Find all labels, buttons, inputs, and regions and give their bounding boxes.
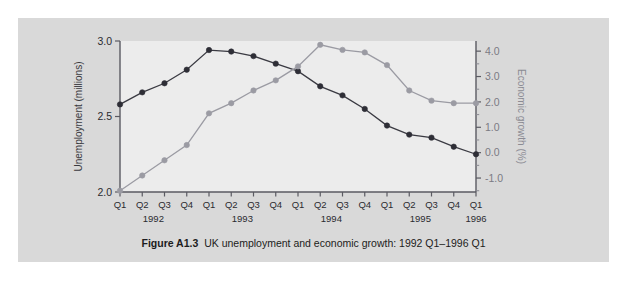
data-point [251, 88, 256, 93]
right-axis-tick-label: -1.0 [485, 172, 503, 184]
chart-plot-area: 2.02.53.0 -1.00.01.02.03.04.0 Q1Q2Q3Q4Q1… [18, 18, 609, 223]
x-axis-year-label: 1993 [232, 213, 253, 223]
data-point [229, 49, 234, 54]
right-axis-tick-label: 3.0 [485, 70, 500, 82]
data-point [318, 84, 323, 89]
data-point [273, 61, 278, 66]
x-axis-year-label: 1995 [410, 213, 431, 223]
data-point [407, 88, 412, 93]
data-point [451, 100, 456, 105]
data-point [162, 81, 167, 86]
x-axis: Q1Q2Q3Q4Q1Q2Q3Q4Q1Q2Q3Q4Q1Q2Q3Q4Q1199219… [114, 192, 487, 223]
x-axis-quarter-label: Q3 [336, 199, 349, 210]
x-axis-quarter-label: Q3 [158, 199, 171, 210]
data-point [473, 100, 478, 105]
right-axis: -1.00.01.02.03.04.0 [476, 41, 503, 192]
data-point [340, 47, 345, 52]
x-axis-quarter-label: Q1 [470, 199, 483, 210]
data-point [184, 142, 189, 147]
left-axis-title: Unemployment (millions) [73, 61, 84, 171]
data-point [273, 78, 278, 83]
x-axis-year-label: 1994 [321, 213, 342, 223]
figure-card: 2.02.53.0 -1.00.01.02.03.04.0 Q1Q2Q3Q4Q1… [18, 18, 609, 262]
x-axis-quarter-label: Q4 [447, 199, 460, 210]
right-axis-tick-label: 4.0 [485, 45, 500, 57]
x-axis-year-label: 1992 [143, 213, 164, 223]
left-axis-tick-label: 3.0 [97, 35, 112, 47]
data-point [140, 90, 145, 95]
x-axis-quarter-label: Q1 [381, 199, 394, 210]
caption-label: Figure A1.3 [142, 237, 199, 249]
data-point [362, 50, 367, 55]
x-axis-quarter-label: Q4 [180, 199, 193, 210]
x-axis-quarter-label: Q4 [358, 199, 371, 210]
caption-text: UK unemployment and economic growth: 199… [204, 237, 485, 249]
data-point [362, 106, 367, 111]
right-axis-tick-label: 2.0 [485, 96, 500, 108]
x-axis-year-label: 1996 [465, 213, 486, 223]
right-axis-tick-label: 1.0 [485, 121, 500, 133]
x-axis-quarter-label: Q1 [114, 199, 127, 210]
line-chart: 2.02.53.0 -1.00.01.02.03.04.0 Q1Q2Q3Q4Q1… [18, 18, 609, 223]
data-point [429, 98, 434, 103]
data-point [117, 102, 122, 107]
data-point [473, 152, 478, 157]
data-point [206, 111, 211, 116]
x-axis-quarter-label: Q2 [225, 199, 238, 210]
figure-caption: Figure A1.3 UK unemployment and economic… [18, 223, 609, 262]
left-axis-tick-label: 2.0 [97, 186, 112, 198]
data-point [184, 67, 189, 72]
data-point [229, 100, 234, 105]
left-axis-tick-label: 2.5 [97, 110, 112, 122]
data-point [407, 132, 412, 137]
left-axis: 2.02.53.0 [97, 35, 120, 198]
right-axis-tick-label: 0.0 [485, 146, 500, 158]
data-point [318, 42, 323, 47]
data-point [384, 123, 389, 128]
data-point [251, 53, 256, 58]
data-point [140, 173, 145, 178]
data-point [206, 47, 211, 52]
data-point [162, 158, 167, 163]
x-axis-quarter-label: Q2 [314, 199, 327, 210]
data-point [451, 144, 456, 149]
x-axis-quarter-label: Q2 [136, 199, 149, 210]
x-axis-quarter-label: Q4 [269, 199, 282, 210]
data-point [340, 93, 345, 98]
data-point [117, 188, 122, 193]
x-axis-quarter-label: Q1 [203, 199, 216, 210]
x-axis-quarter-label: Q2 [403, 199, 416, 210]
data-point [295, 64, 300, 69]
data-point [429, 135, 434, 140]
right-axis-title: Economic growth (%) [516, 69, 527, 164]
data-point [384, 62, 389, 67]
x-axis-quarter-label: Q3 [425, 199, 438, 210]
x-axis-quarter-label: Q3 [247, 199, 260, 210]
x-axis-quarter-label: Q1 [292, 199, 305, 210]
